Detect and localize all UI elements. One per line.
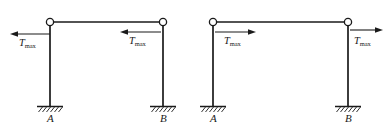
- frame-right: [200, 18, 383, 112]
- force-label-left-inner: Tmax: [129, 36, 145, 47]
- force-arrow-left-outer: [10, 31, 50, 36]
- portal-frame-diagram: [0, 0, 387, 131]
- pin-joint-icon: [344, 18, 351, 25]
- frame-left: [10, 18, 176, 112]
- node-label-a-right: A: [210, 113, 217, 124]
- node-label-b-right: B: [345, 113, 352, 124]
- force-label-right-outer: Tmax: [354, 36, 370, 47]
- pin-joint-icon: [159, 18, 166, 25]
- pin-joint-icon: [209, 18, 216, 25]
- force-label-left-outer: Tmax: [19, 38, 35, 49]
- force-arrow-right-outer: [350, 27, 383, 32]
- node-label-a-left: A: [47, 113, 54, 124]
- node-label-b-left: B: [160, 113, 167, 124]
- force-label-right-inner: Tmax: [224, 36, 240, 47]
- pin-joint-icon: [46, 18, 53, 25]
- force-arrow-left-inner: [120, 29, 161, 34]
- force-arrow-right-inner: [215, 29, 256, 34]
